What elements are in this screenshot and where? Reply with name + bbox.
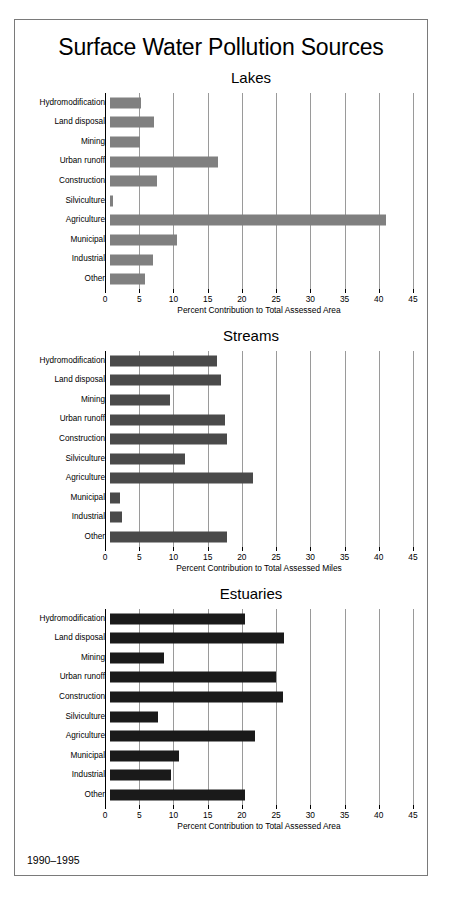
bar-row: Industrial: [23, 508, 413, 528]
bar-row: Urban runoff: [23, 152, 413, 172]
bar: [110, 731, 255, 742]
x-axis: 051015202530354045Percent Contribution t…: [23, 805, 413, 835]
axis-tick: [242, 289, 243, 293]
category-label: Land disposal: [23, 376, 110, 384]
bar: [110, 176, 157, 187]
axis-tick: [413, 547, 414, 551]
bar-track: [110, 648, 413, 668]
bar: [110, 492, 120, 503]
bar-track: [110, 488, 413, 508]
axis-tick: [310, 547, 311, 551]
axis-tick-label: 30: [306, 294, 315, 304]
axis-tick-label: 10: [169, 552, 178, 562]
axis-tick-label: 20: [237, 552, 246, 562]
axis-tick: [345, 547, 346, 551]
chart-stack: LakesHydromodificationLand disposalMinin…: [15, 69, 427, 835]
axis-tick: [276, 289, 277, 293]
axis-tick-label: 35: [340, 294, 349, 304]
bar: [110, 770, 171, 781]
bar: [110, 195, 113, 206]
bar-track: [110, 371, 413, 391]
category-label: Silviculture: [23, 455, 110, 463]
axis-tick-label: 5: [137, 552, 142, 562]
category-label: Agriculture: [23, 216, 110, 224]
figure-panel: Surface Water Pollution Sources LakesHyd…: [14, 19, 428, 876]
axis-tick-label: 5: [137, 810, 142, 820]
category-label: Urban runoff: [23, 673, 110, 681]
axis-tick-label: 45: [408, 552, 417, 562]
category-label: Construction: [23, 177, 110, 185]
bar: [110, 512, 122, 523]
bar-row: Hydromodification: [23, 93, 413, 113]
bar-row: Land disposal: [23, 113, 413, 133]
axis-tick: [173, 547, 174, 551]
gridline: [413, 93, 414, 289]
bar: [110, 750, 179, 761]
bar-row: Other: [23, 269, 413, 289]
category-label: Industrial: [23, 771, 110, 779]
bar-row: Land disposal: [23, 628, 413, 648]
axis-tick-label: 25: [271, 294, 280, 304]
bar-track: [110, 113, 413, 133]
bar-track: [110, 766, 413, 786]
category-label: Mining: [23, 654, 110, 662]
bar: [110, 672, 276, 683]
bar-track: [110, 93, 413, 113]
bar-track: [110, 687, 413, 707]
plot-area: HydromodificationLand disposalMiningUrba…: [23, 93, 413, 289]
bar-track: [110, 132, 413, 152]
axis-tick-label: 40: [374, 810, 383, 820]
bar-row: Industrial: [23, 766, 413, 786]
bar-row: Municipal: [23, 230, 413, 250]
category-label: Municipal: [23, 236, 110, 244]
category-label: Urban runoff: [23, 157, 110, 165]
bar: [110, 414, 225, 425]
bar: [110, 117, 154, 128]
bar: [110, 434, 227, 445]
bar-row: Silviculture: [23, 191, 413, 211]
axis-tick-label: 20: [237, 294, 246, 304]
axis-tick: [310, 289, 311, 293]
x-axis: 051015202530354045Percent Contribution t…: [23, 289, 413, 319]
bar-row: Construction: [23, 171, 413, 191]
x-axis: 051015202530354045Percent Contribution t…: [23, 547, 413, 577]
axis-tick: [139, 547, 140, 551]
plot-area: HydromodificationLand disposalMiningUrba…: [23, 609, 413, 805]
bar-row: Construction: [23, 429, 413, 449]
bar: [110, 633, 284, 644]
chart-title: Lakes: [15, 69, 427, 86]
axis-tick-label: 40: [374, 294, 383, 304]
bar-row: Other: [23, 785, 413, 805]
axis-tick: [105, 289, 106, 293]
bar: [110, 613, 245, 624]
chart-title: Streams: [15, 327, 427, 344]
axis-tick: [276, 547, 277, 551]
bar-row: Municipal: [23, 746, 413, 766]
category-label: Agriculture: [23, 732, 110, 740]
bar: [110, 274, 145, 285]
category-label: Construction: [23, 693, 110, 701]
bar: [110, 156, 218, 167]
category-label: Hydromodification: [23, 357, 110, 365]
category-label: Silviculture: [23, 713, 110, 721]
axis-tick: [242, 547, 243, 551]
bar-row: Municipal: [23, 488, 413, 508]
bar-row: Silviculture: [23, 707, 413, 727]
bar-track: [110, 726, 413, 746]
bar-row: Agriculture: [23, 469, 413, 489]
axis-tick: [379, 805, 380, 809]
axis-tick-label: 15: [203, 810, 212, 820]
category-label: Land disposal: [23, 634, 110, 642]
category-label: Other: [23, 275, 110, 283]
category-label: Hydromodification: [23, 615, 110, 623]
bar-track: [110, 746, 413, 766]
bar: [110, 234, 177, 245]
bar: [110, 394, 170, 405]
bar: [110, 355, 217, 366]
bar-row: Hydromodification: [23, 609, 413, 629]
bar-track: [110, 469, 413, 489]
category-label: Construction: [23, 435, 110, 443]
axis-tick: [345, 289, 346, 293]
category-label: Urban runoff: [23, 415, 110, 423]
bar-row: Land disposal: [23, 371, 413, 391]
